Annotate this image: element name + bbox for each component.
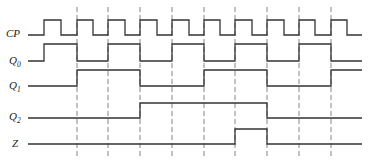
cp-waveform bbox=[28, 20, 362, 35]
signal-waveforms bbox=[28, 20, 362, 144]
z-waveform bbox=[28, 129, 362, 144]
q2-label: Q2 bbox=[9, 110, 21, 125]
q0-waveform bbox=[28, 44, 362, 61]
q0-label: Q0 bbox=[9, 54, 21, 69]
z-label: Z bbox=[12, 137, 19, 149]
q2-waveform bbox=[28, 103, 362, 118]
cp-label: CP bbox=[6, 27, 20, 39]
q1-waveform bbox=[28, 70, 362, 86]
signal-labels: CPQ0Q1Q2Z bbox=[6, 27, 21, 149]
timing-diagram: CPQ0Q1Q2Z bbox=[0, 0, 371, 167]
q1-label: Q1 bbox=[9, 79, 21, 94]
